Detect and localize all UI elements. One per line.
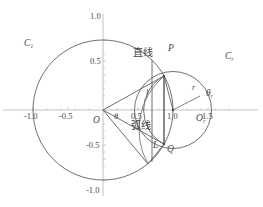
circle-c1-label: C1 (24, 39, 33, 49)
circle-cr-label: Cr (225, 52, 234, 62)
geometry-figure (0, 0, 263, 207)
x-tick-label-1-0: 1.0 (167, 112, 178, 121)
line-l-label: l (146, 88, 148, 97)
theta-r-sub: r (211, 93, 213, 99)
radius-label: r (192, 83, 195, 92)
circle-cr-sub: r (231, 56, 233, 62)
x-tick-label-neg1: -1.0 (24, 112, 37, 121)
arc-line-text: 弧线 (131, 121, 151, 131)
radius-segment-r (164, 76, 173, 110)
circle-c1-sub: 1 (30, 43, 33, 49)
y-tick-label-neg0-5: -0.5 (86, 141, 99, 150)
y-tick-label-neg1-0: -1.0 (86, 186, 99, 195)
theta-origin-label: θ (114, 112, 118, 121)
point-p-label: P (168, 44, 174, 54)
point-p-marker (163, 75, 165, 77)
origin-label: O (93, 116, 100, 126)
theta-r-label: θr (206, 89, 213, 99)
y-tick-label-1-0: 1.0 (90, 12, 101, 21)
center-or-sub: r (203, 118, 205, 124)
segment-op (103, 76, 164, 110)
center-or-base: O (196, 113, 203, 123)
point-q-marker (163, 143, 165, 145)
theta-r-ray (173, 96, 200, 110)
x-axis-ticks (33, 107, 229, 110)
center-or-label: Or (196, 114, 205, 124)
straight-line-text: 直线 (133, 48, 153, 58)
x-tick-label-neg0-5: -0.5 (59, 112, 72, 121)
point-q-label: Q (167, 145, 174, 155)
chord-L-label: L (153, 141, 158, 151)
y-tick-label-0-5: 0.5 (90, 57, 101, 66)
